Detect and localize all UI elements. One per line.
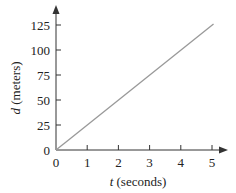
y-axis-label: d (meters) xyxy=(8,61,23,114)
x-tick-label: 4 xyxy=(178,155,185,170)
y-tick-label: 0 xyxy=(44,143,51,158)
y-tick-label: 50 xyxy=(37,93,50,108)
x-tick-label: 0 xyxy=(53,155,60,170)
x-ticks: 012345 xyxy=(53,145,216,170)
x-axis-label: t (seconds) xyxy=(110,174,167,189)
data-line xyxy=(56,24,214,150)
y-tick-label: 75 xyxy=(37,68,50,83)
x-tick-label: 5 xyxy=(209,155,216,170)
x-tick-label: 3 xyxy=(146,155,153,170)
x-tick-label: 1 xyxy=(84,155,91,170)
x-axis-arrow-icon xyxy=(219,147,228,154)
y-tick-label: 100 xyxy=(31,43,51,58)
y-tick-label: 125 xyxy=(31,18,51,33)
distance-time-chart: 012345 0255075100125 t (seconds) d (mete… xyxy=(0,0,236,193)
y-axis-arrow-icon xyxy=(53,5,60,14)
x-tick-label: 2 xyxy=(115,155,122,170)
y-tick-label: 25 xyxy=(37,118,50,133)
